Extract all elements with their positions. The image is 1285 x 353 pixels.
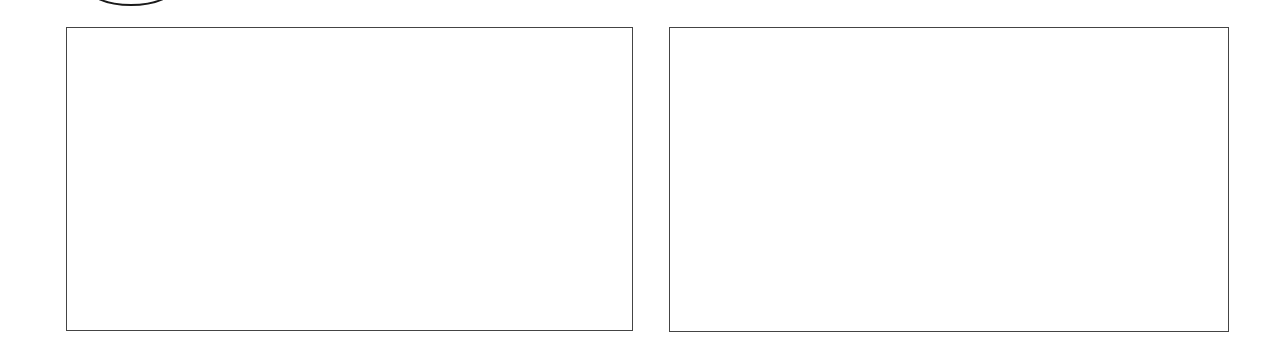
left-panel <box>66 27 633 331</box>
top-ellipse-shape <box>86 0 176 6</box>
right-panel <box>669 27 1229 332</box>
